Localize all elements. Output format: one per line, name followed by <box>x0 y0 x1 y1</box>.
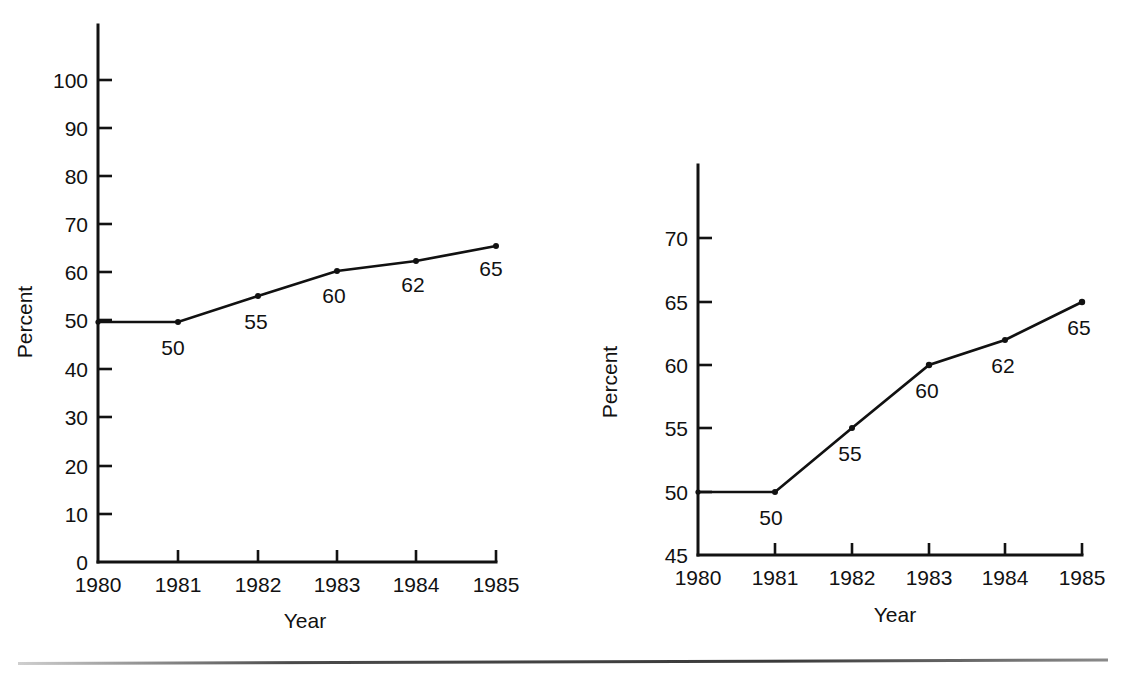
left-data-point-1980 <box>95 319 100 324</box>
left-x-tick-label-1981: 1981 <box>155 573 202 596</box>
left-data-point-1983 <box>334 268 340 274</box>
right-y-tick-label-55: 55 <box>665 417 688 440</box>
right-y-tick-label-45: 45 <box>665 544 688 567</box>
figure-canvas: 100 90 80 70 60 50 40 30 20 10 0 1980 19… <box>0 0 1124 674</box>
right-data-line <box>698 302 1082 492</box>
left-x-ticks <box>178 550 496 562</box>
left-y-tick-label-20: 20 <box>65 455 88 478</box>
left-y-tick-label-30: 30 <box>65 406 88 429</box>
right-x-tick-label-1984: 1984 <box>982 566 1029 589</box>
right-y-tick-label-50: 50 <box>665 481 688 504</box>
left-point-label-1984: 62 <box>401 273 424 296</box>
right-y-axis-title: Percent <box>598 346 621 419</box>
left-y-tick-label-80: 80 <box>65 165 88 188</box>
left-y-axis-title: Percent <box>13 286 36 359</box>
left-y-tick-label-40: 40 <box>65 358 88 381</box>
chart-right: 70 65 60 55 50 45 1980 1981 1982 1983 19… <box>562 0 1124 674</box>
left-y-tick-label-0: 0 <box>76 551 88 574</box>
left-x-axis-title: Year <box>284 609 326 632</box>
left-x-tick-label-1982: 1982 <box>235 573 282 596</box>
right-point-label-1984: 62 <box>991 354 1014 377</box>
left-y-tick-label-100: 100 <box>53 69 88 92</box>
left-data-point-1985 <box>493 243 499 249</box>
right-data-point-1983 <box>926 362 932 368</box>
right-y-tick-label-60: 60 <box>665 354 688 377</box>
right-point-label-1983: 60 <box>915 379 938 402</box>
left-data-line <box>98 246 496 322</box>
left-y-tick-label-50: 50 <box>65 309 88 332</box>
right-point-labels: 50 55 60 62 65 <box>759 316 1090 529</box>
left-data-point-1982 <box>255 293 261 299</box>
left-x-tick-label-1984: 1984 <box>393 573 440 596</box>
right-y-ticks <box>698 238 712 492</box>
right-x-tick-label-1981: 1981 <box>752 566 799 589</box>
right-y-tick-label-70: 70 <box>665 227 688 250</box>
right-data-point-1985 <box>1079 299 1085 305</box>
right-data-point-1984 <box>1002 337 1008 343</box>
right-x-tick-labels: 1980 1981 1982 1983 1984 1985 <box>675 566 1106 589</box>
left-point-label-1985: 65 <box>479 257 502 280</box>
right-data-point-1980 <box>695 489 700 494</box>
left-y-ticks <box>98 80 112 514</box>
left-data-point-1984 <box>413 258 419 264</box>
left-x-tick-label-1980: 1980 <box>75 573 122 596</box>
right-point-label-1985: 65 <box>1067 316 1090 339</box>
left-x-tick-labels: 1980 1981 1982 1983 1984 1985 <box>75 573 520 596</box>
left-x-tick-label-1983: 1983 <box>314 573 361 596</box>
right-x-tick-label-1985: 1985 <box>1059 566 1106 589</box>
left-point-label-1983: 60 <box>322 284 345 307</box>
left-y-tick-label-70: 70 <box>65 213 88 236</box>
right-x-ticks <box>775 543 1082 555</box>
left-point-label-1981: 50 <box>161 336 184 359</box>
right-x-tick-label-1982: 1982 <box>829 566 876 589</box>
right-x-axis-title: Year <box>874 603 916 626</box>
chart-left: 100 90 80 70 60 50 40 30 20 10 0 1980 19… <box>0 0 562 674</box>
left-y-tick-labels: 100 90 80 70 60 50 40 30 20 10 0 <box>53 69 88 574</box>
right-y-tick-label-65: 65 <box>665 291 688 314</box>
right-data-point-1981 <box>772 489 778 495</box>
left-data-point-1981 <box>175 319 181 325</box>
left-x-tick-label-1985: 1985 <box>473 573 520 596</box>
right-point-label-1982: 55 <box>838 442 861 465</box>
left-y-tick-label-60: 60 <box>65 261 88 284</box>
left-point-label-1982: 55 <box>244 310 267 333</box>
right-y-tick-labels: 70 65 60 55 50 45 <box>665 227 688 567</box>
right-point-label-1981: 50 <box>759 506 782 529</box>
right-x-tick-label-1980: 1980 <box>675 566 722 589</box>
right-x-tick-label-1983: 1983 <box>906 566 953 589</box>
right-data-point-1982 <box>849 425 855 431</box>
left-y-tick-label-10: 10 <box>65 503 88 526</box>
left-y-tick-label-90: 90 <box>65 117 88 140</box>
